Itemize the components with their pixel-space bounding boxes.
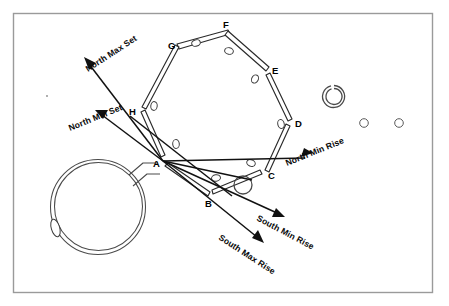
- node-label-D: D: [295, 118, 302, 129]
- node-label-A: A: [153, 158, 160, 169]
- node-label-B: B: [205, 198, 212, 209]
- node-label-E: E: [272, 65, 278, 76]
- node-label-C: C: [268, 170, 275, 181]
- pit-circle: [360, 119, 369, 128]
- figure-frame: [14, 14, 433, 293]
- site-plan-figure: A B C D E F G H North Max Set North Min …: [0, 0, 449, 306]
- node-label-H: H: [129, 106, 136, 117]
- node-label-G: G: [168, 40, 175, 51]
- site-plan-canvas: A B C D E F G H North Max Set North Min …: [0, 0, 449, 306]
- stone-hole: [172, 139, 179, 148]
- pit-circle: [395, 119, 404, 128]
- speck-artifact: [46, 95, 48, 97]
- node-label-F: F: [223, 19, 229, 30]
